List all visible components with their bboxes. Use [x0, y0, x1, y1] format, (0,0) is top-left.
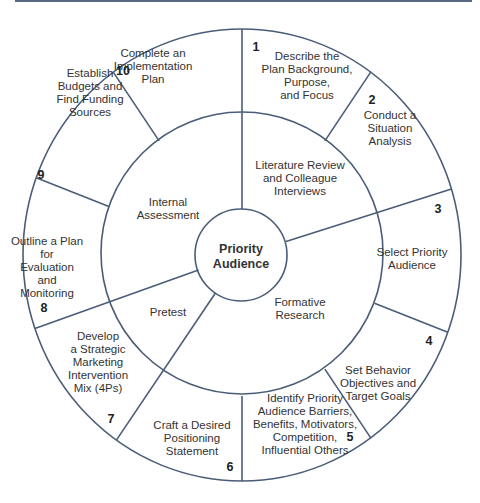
step-label-3: Select PriorityAudience	[377, 246, 448, 271]
step-label-7: Developa StrategicMarketingInterventionM…	[68, 330, 128, 394]
ring-label-formative-research: FormativeResearch	[274, 296, 325, 321]
outer-divider-line	[325, 72, 371, 141]
center-label-priority-audience: PriorityAudience	[213, 242, 269, 271]
step-label-5: Identify PriorityAudience Barriers,Benef…	[253, 392, 357, 456]
ring-label-internal-assessment: InternalAssessment	[137, 196, 200, 221]
ring-label-pretest: Pretest	[150, 306, 187, 318]
step-number-7: 7	[108, 412, 115, 426]
step-number-4: 4	[426, 334, 433, 348]
step-number-9: 9	[38, 168, 45, 182]
full-divider-line	[35, 270, 199, 329]
step-label-4: Set BehaviorObjectives andTarget Goals	[340, 364, 416, 402]
outer-divider-line	[374, 303, 447, 332]
step-label-8: Outline a PlanforEvaluationandMonitoring	[11, 235, 83, 299]
step-number-1: 1	[253, 40, 260, 54]
step-label-6: Craft a DesiredPositioningStatement	[153, 419, 230, 457]
outer-divider-line	[36, 178, 109, 207]
step-number-6: 6	[227, 460, 234, 474]
step-number-10: 10	[116, 64, 130, 78]
step-number-5: 5	[347, 430, 354, 444]
ring-label-literature-review: Literature Reviewand ColleagueInterviews	[255, 159, 345, 197]
planning-wheel-diagram: PriorityAudienceLiterature Reviewand Col…	[0, 0, 480, 503]
step-number-2: 2	[369, 93, 376, 107]
step-label-1: Describe thePlan Background,Purpose,and …	[262, 50, 353, 101]
step-label-9: EstablishBudgets andFind FundingSources	[56, 67, 123, 118]
step-number-8: 8	[41, 301, 48, 315]
step-label-2: Conduct aSituationAnalysis	[364, 109, 417, 147]
step-number-3: 3	[435, 202, 442, 216]
